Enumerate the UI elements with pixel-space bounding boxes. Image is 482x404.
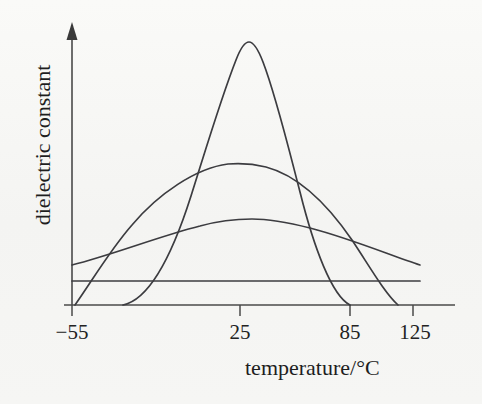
curves-group bbox=[72, 42, 420, 305]
dielectric-constant-vs-temperature-chart: −55 25 85 125 temperature/°C dielectric … bbox=[0, 0, 482, 404]
curve-sharp-peak bbox=[123, 42, 350, 305]
y-axis-arrow-icon bbox=[67, 22, 78, 40]
x-tick-labels-group: −55 25 85 125 bbox=[56, 320, 431, 344]
curve-low-broad bbox=[72, 219, 420, 265]
axes-group bbox=[64, 22, 455, 305]
curve-broad-medium bbox=[75, 164, 398, 305]
x-tick-label-85: 85 bbox=[340, 320, 361, 344]
x-axis-ticks-group bbox=[72, 305, 413, 316]
chart-figure: −55 25 85 125 temperature/°C dielectric … bbox=[0, 0, 482, 404]
x-tick-label-125: 125 bbox=[399, 320, 431, 344]
x-axis-title: temperature/°C bbox=[245, 355, 380, 380]
x-tick-label-minus55: −55 bbox=[56, 320, 89, 344]
x-tick-label-25: 25 bbox=[230, 320, 251, 344]
y-axis-title: dielectric constant bbox=[30, 65, 55, 226]
